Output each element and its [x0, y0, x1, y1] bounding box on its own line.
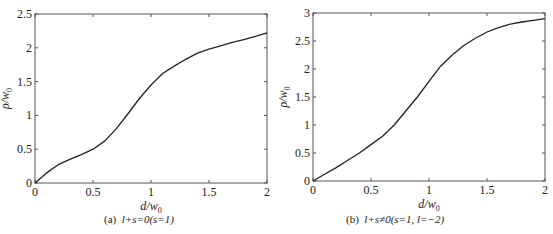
y-tick-label: 0.5 — [17, 142, 32, 156]
y-tick-label: 1 — [26, 108, 32, 122]
data-line — [35, 33, 267, 183]
x-axis-label: d/w0 — [418, 197, 439, 213]
x-tick-label: 2 — [542, 183, 548, 197]
y-tick-label: 2.5 — [295, 34, 310, 48]
x-tick-label: 1 — [148, 185, 154, 199]
x-tick-label: 0.5 — [364, 183, 379, 197]
y-axis-label: ρ/w0 — [0, 88, 14, 110]
y-tick-label: 2 — [26, 41, 32, 55]
x-tick-label: 0 — [32, 185, 38, 199]
line-chart-a: 00.511.5200.511.522.5d/w0ρ/w0 — [0, 0, 276, 234]
caption-b: (b) l+s≠0(s=1, l=−2) — [346, 213, 444, 225]
y-tick-label: 0 — [304, 174, 310, 188]
x-tick-label: 1 — [426, 183, 432, 197]
x-tick-label: 0 — [310, 183, 316, 197]
plot-frame — [35, 14, 267, 183]
y-tick-label: 2 — [304, 62, 310, 76]
caption-a: (a) l+s=0(s=1) — [104, 213, 174, 225]
y-tick-label: 2.5 — [17, 7, 32, 21]
x-tick-label: 1.5 — [480, 183, 495, 197]
caption-b-text: l+s≠0(s=1, l=−2) — [364, 213, 444, 225]
caption-b-label: (b) — [346, 213, 359, 225]
caption-a-text: l+s=0(s=1) — [122, 213, 174, 225]
chart-panel-b: 00.511.5200.511.522.53d/w0ρ/w0 (b) l+s≠0… — [276, 0, 553, 234]
caption-a-label: (a) — [104, 213, 116, 225]
y-tick-label: 1 — [304, 118, 310, 132]
x-tick-label: 1.5 — [202, 185, 217, 199]
y-tick-label: 1.5 — [17, 75, 32, 89]
y-tick-label: 1.5 — [295, 90, 310, 104]
chart-panel-a: 00.511.5200.511.522.5d/w0ρ/w0 (a) l+s=0(… — [0, 0, 276, 234]
y-tick-label: 3 — [304, 6, 310, 20]
x-tick-label: 2 — [264, 185, 270, 199]
y-axis-label: ρ/w0 — [276, 86, 292, 108]
line-chart-b: 00.511.5200.511.522.53d/w0ρ/w0 — [276, 0, 553, 234]
y-tick-label: 0.5 — [295, 146, 310, 160]
plot-frame — [313, 13, 545, 181]
data-line — [313, 19, 545, 181]
x-tick-label: 0.5 — [86, 185, 101, 199]
y-tick-label: 0 — [26, 176, 32, 190]
